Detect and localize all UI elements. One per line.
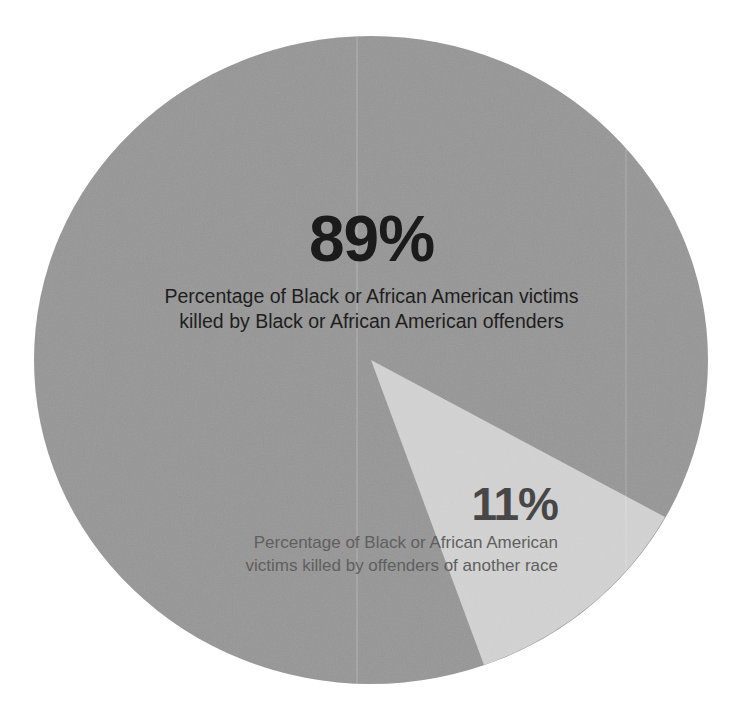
minor-slice-percentage: 11% [471, 478, 558, 530]
major-slice-description: Percentage of Black or African American … [0, 284, 743, 334]
pie-chart [0, 0, 743, 714]
minor-slice-description: Percentage of Black or African American … [246, 531, 558, 577]
major-slice-description-line1: Percentage of Black or African American … [0, 284, 743, 309]
major-slice-percentage: 89% [0, 203, 743, 275]
minor-slice-description-line2: victims killed by offenders of another r… [246, 554, 558, 577]
major-slice-description-line2: killed by Black or African American offe… [0, 309, 743, 334]
minor-slice-description-line1: Percentage of Black or African American [246, 531, 558, 554]
